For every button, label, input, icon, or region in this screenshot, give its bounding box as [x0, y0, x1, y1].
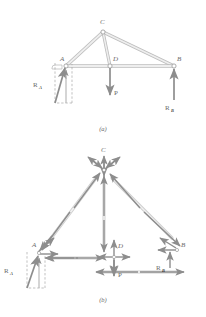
- member-CD-highlight: [103, 32, 110, 66]
- panel-b: C A B D P R B R A (b): [4, 146, 186, 304]
- panel-a-members: [66, 32, 174, 66]
- jointb-C: [102, 168, 105, 171]
- label-node-A-b: A: [31, 241, 37, 249]
- joint-D: [108, 64, 112, 68]
- force-RA-arrow: [55, 68, 65, 103]
- svg-text:B: B: [162, 268, 165, 273]
- jointA-arrow-downleft: [40, 236, 52, 250]
- joint-C-forces: [88, 156, 120, 176]
- label-force-RA-b: R A: [4, 267, 13, 276]
- label-force-RB-a: R B: [165, 104, 174, 113]
- memberb-CB-arrow-hi: [110, 174, 140, 208]
- svg-text:R: R: [156, 264, 161, 272]
- jointb-D: [112, 255, 115, 258]
- svg-text:A: A: [38, 85, 42, 90]
- svg-text:R: R: [33, 81, 38, 89]
- svg-text:A: A: [9, 271, 13, 276]
- support-shoe-A: [52, 65, 62, 69]
- figure-svg: A C B D P R B R A (a): [0, 0, 206, 317]
- label-force-P-a: P: [114, 89, 118, 97]
- svg-text:R: R: [4, 267, 9, 275]
- label-node-B-a: B: [177, 55, 182, 63]
- joint-B: [172, 64, 176, 68]
- joint-A: [64, 64, 68, 68]
- caption-a: (a): [99, 125, 107, 133]
- label-force-P-b: P: [118, 271, 122, 279]
- label-node-C-b: C: [101, 146, 106, 154]
- memberb-AC-arrow-hi: [74, 173, 100, 208]
- joint-C: [101, 30, 105, 34]
- jointC-arrow-downleft: [106, 158, 118, 168]
- jointb-A: [37, 251, 40, 254]
- label-force-RB-b: R B: [156, 264, 165, 273]
- force-RA-arrow-b: [27, 256, 38, 288]
- svg-text:B: B: [171, 108, 174, 113]
- label-node-C-a: C: [100, 18, 105, 26]
- truss-figure: A C B D P R B R A (a): [0, 0, 206, 317]
- panel-a: A C B D P R B R A (a): [33, 18, 182, 133]
- jointC-arrow-downright: [90, 158, 102, 168]
- member-AC-highlight: [66, 32, 103, 66]
- label-node-B-b: B: [181, 241, 186, 249]
- panel-a-joints: [64, 30, 176, 68]
- label-node-D-b: D: [117, 242, 123, 250]
- label-node-D-a: D: [112, 55, 118, 63]
- joint-A-forces: [37, 236, 78, 258]
- caption-b: (b): [99, 296, 107, 304]
- label-node-A-a: A: [59, 55, 65, 63]
- memberb-CB-arrow-lo: [144, 212, 180, 246]
- svg-text:R: R: [165, 104, 170, 112]
- label-force-RA-a: R A: [33, 81, 42, 90]
- jointb-B: [175, 248, 178, 251]
